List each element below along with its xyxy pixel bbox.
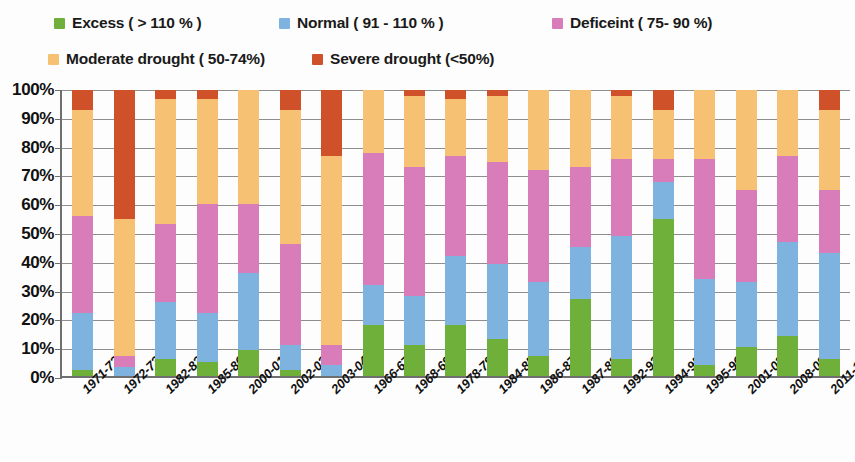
legend-item-excess[interactable]: Excess ( > 110 % ) xyxy=(54,10,202,36)
bar-column[interactable] xyxy=(435,90,476,376)
bar-segment-excess[interactable] xyxy=(611,359,632,376)
bar-segment-deficient[interactable] xyxy=(363,153,384,285)
bar-segment-normal[interactable] xyxy=(819,253,840,359)
bar-segment-excess[interactable] xyxy=(155,359,176,376)
bar-segment-normal[interactable] xyxy=(72,313,93,370)
bar-segment-normal[interactable] xyxy=(487,264,508,338)
bar-segment-moderate[interactable] xyxy=(653,110,674,159)
stacked-bar[interactable] xyxy=(528,90,549,376)
bar-segment-deficient[interactable] xyxy=(570,167,591,247)
bar-column[interactable] xyxy=(767,90,808,376)
bar-segment-excess[interactable] xyxy=(570,299,591,376)
bar-segment-moderate[interactable] xyxy=(819,110,840,190)
bar-segment-normal[interactable] xyxy=(238,273,259,350)
stacked-bar[interactable] xyxy=(197,90,218,376)
bar-segment-normal[interactable] xyxy=(694,279,715,365)
bar-segment-moderate[interactable] xyxy=(736,90,757,190)
bar-segment-severe[interactable] xyxy=(445,90,466,99)
bar-segment-excess[interactable] xyxy=(487,339,508,376)
bar-segment-moderate[interactable] xyxy=(280,110,301,244)
bar-segment-moderate[interactable] xyxy=(487,96,508,162)
bar-segment-deficient[interactable] xyxy=(72,216,93,313)
bar-column[interactable] xyxy=(684,90,725,376)
bar-segment-excess[interactable] xyxy=(404,345,425,376)
bar-segment-moderate[interactable] xyxy=(404,96,425,168)
stacked-bar[interactable] xyxy=(363,90,384,376)
bar-segment-excess[interactable] xyxy=(819,359,840,376)
bar-segment-excess[interactable] xyxy=(528,356,549,376)
bar-column[interactable] xyxy=(103,90,144,376)
bar-segment-deficient[interactable] xyxy=(197,204,218,313)
bar-column[interactable] xyxy=(643,90,684,376)
bar-segment-normal[interactable] xyxy=(321,365,342,376)
legend-item-deficient[interactable]: Deficeint ( 75- 90 %) xyxy=(552,10,712,36)
bar-column[interactable] xyxy=(808,90,849,376)
bar-segment-deficient[interactable] xyxy=(487,162,508,265)
bar-segment-normal[interactable] xyxy=(528,282,549,356)
legend-item-moderate-drought[interactable]: Moderate drought ( 50-74%) xyxy=(48,46,265,72)
bar-column[interactable] xyxy=(186,90,227,376)
bar-segment-deficient[interactable] xyxy=(280,244,301,344)
bar-column[interactable] xyxy=(311,90,352,376)
bar-column[interactable] xyxy=(477,90,518,376)
stacked-bar[interactable] xyxy=(280,90,301,376)
bar-segment-severe[interactable] xyxy=(114,90,135,219)
stacked-bar[interactable] xyxy=(155,90,176,376)
bar-segment-severe[interactable] xyxy=(653,90,674,110)
bar-segment-severe[interactable] xyxy=(197,90,218,99)
bar-segment-moderate[interactable] xyxy=(238,90,259,204)
bar-segment-normal[interactable] xyxy=(736,282,757,348)
bar-segment-normal[interactable] xyxy=(363,285,384,325)
stacked-bar[interactable] xyxy=(404,90,425,376)
bar-segment-moderate[interactable] xyxy=(114,219,135,356)
bar-segment-moderate[interactable] xyxy=(155,99,176,225)
stacked-bar[interactable] xyxy=(611,90,632,376)
bar-segment-deficient[interactable] xyxy=(238,204,259,273)
stacked-bar[interactable] xyxy=(72,90,93,376)
bar-segment-moderate[interactable] xyxy=(528,90,549,170)
bar-segment-excess[interactable] xyxy=(777,336,798,376)
bar-segment-excess[interactable] xyxy=(363,325,384,376)
bar-column[interactable] xyxy=(145,90,186,376)
bar-segment-deficient[interactable] xyxy=(819,190,840,253)
stacked-bar[interactable] xyxy=(694,90,715,376)
bar-column[interactable] xyxy=(518,90,559,376)
bar-segment-excess[interactable] xyxy=(72,370,93,376)
bar-segment-excess[interactable] xyxy=(653,219,674,376)
bar-column[interactable] xyxy=(601,90,642,376)
bar-segment-normal[interactable] xyxy=(653,182,674,219)
bar-segment-deficient[interactable] xyxy=(445,156,466,256)
bar-segment-moderate[interactable] xyxy=(197,99,218,205)
bar-segment-deficient[interactable] xyxy=(736,190,757,282)
bar-column[interactable] xyxy=(394,90,435,376)
bar-segment-normal[interactable] xyxy=(197,313,218,362)
bar-segment-deficient[interactable] xyxy=(611,159,632,236)
stacked-bar[interactable] xyxy=(777,90,798,376)
bar-segment-deficient[interactable] xyxy=(777,156,798,242)
bar-segment-severe[interactable] xyxy=(155,90,176,99)
stacked-bar[interactable] xyxy=(570,90,591,376)
bar-segment-moderate[interactable] xyxy=(570,90,591,167)
bar-segment-normal[interactable] xyxy=(404,296,425,345)
stacked-bar[interactable] xyxy=(321,90,342,376)
bar-segment-excess[interactable] xyxy=(197,362,218,376)
bar-segment-excess[interactable] xyxy=(238,350,259,376)
bar-column[interactable] xyxy=(62,90,103,376)
bar-segment-normal[interactable] xyxy=(280,345,301,371)
bar-segment-moderate[interactable] xyxy=(694,90,715,159)
bar-column[interactable] xyxy=(269,90,310,376)
bar-segment-severe[interactable] xyxy=(280,90,301,110)
legend-item-severe-drought[interactable]: Severe drought (<50%) xyxy=(312,46,494,72)
bar-segment-severe[interactable] xyxy=(72,90,93,110)
bar-segment-moderate[interactable] xyxy=(363,90,384,153)
bar-segment-moderate[interactable] xyxy=(321,156,342,345)
bar-segment-excess[interactable] xyxy=(280,370,301,376)
bar-segment-moderate[interactable] xyxy=(72,110,93,216)
bar-segment-deficient[interactable] xyxy=(155,224,176,301)
bar-column[interactable] xyxy=(560,90,601,376)
legend-item-normal[interactable]: Normal ( 91 - 110 % ) xyxy=(279,10,444,36)
stacked-bar[interactable] xyxy=(736,90,757,376)
bar-segment-normal[interactable] xyxy=(570,247,591,298)
stacked-bar[interactable] xyxy=(819,90,840,376)
bar-segment-normal[interactable] xyxy=(445,256,466,325)
